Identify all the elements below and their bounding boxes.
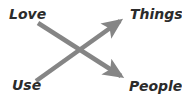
label-people: People (129, 78, 182, 94)
label-use: Use (12, 77, 41, 93)
diagram-canvas: Love Things Use People (0, 0, 182, 102)
label-love: Love (9, 6, 46, 22)
label-things: Things (130, 6, 182, 22)
